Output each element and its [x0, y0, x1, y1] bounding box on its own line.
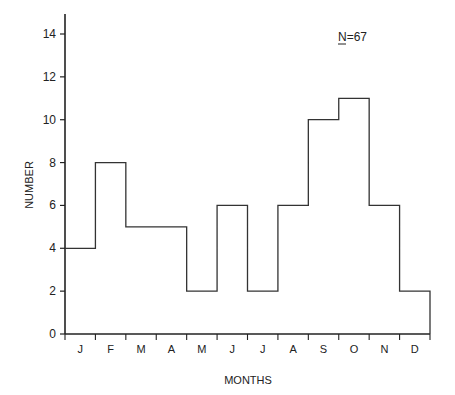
x-tick-label: J [230, 343, 236, 355]
y-tick-label: 0 [49, 327, 56, 341]
histogram-chart: 02468101214JFMAMJJASONDN=67MONTHSNUMBER [0, 0, 455, 395]
x-tick-label: A [168, 343, 176, 355]
y-axis-label: NUMBER [23, 161, 35, 209]
x-tick-label: J [260, 343, 266, 355]
y-tick-label: 6 [49, 198, 56, 212]
y-tick-label: 14 [43, 27, 57, 41]
x-tick-label: O [350, 343, 359, 355]
x-tick-label: S [320, 343, 327, 355]
chart-container: 02468101214JFMAMJJASONDN=67MONTHSNUMBER [0, 0, 455, 395]
x-tick-label: J [77, 343, 83, 355]
x-tick-label: D [411, 343, 419, 355]
x-tick-label: N [380, 343, 388, 355]
y-tick-label: 4 [49, 241, 56, 255]
y-tick-label: 12 [43, 70, 57, 84]
y-tick-label: 8 [49, 156, 56, 170]
sample-size-annotation: N=67 [338, 30, 367, 44]
x-axis-label: MONTHS [224, 374, 272, 386]
x-tick-label: F [107, 343, 114, 355]
x-tick-label: M [136, 343, 145, 355]
histogram-outline [65, 98, 430, 334]
x-tick-label: M [197, 343, 206, 355]
x-tick-label: A [289, 343, 297, 355]
y-tick-label: 2 [49, 284, 56, 298]
y-tick-label: 10 [43, 113, 57, 127]
